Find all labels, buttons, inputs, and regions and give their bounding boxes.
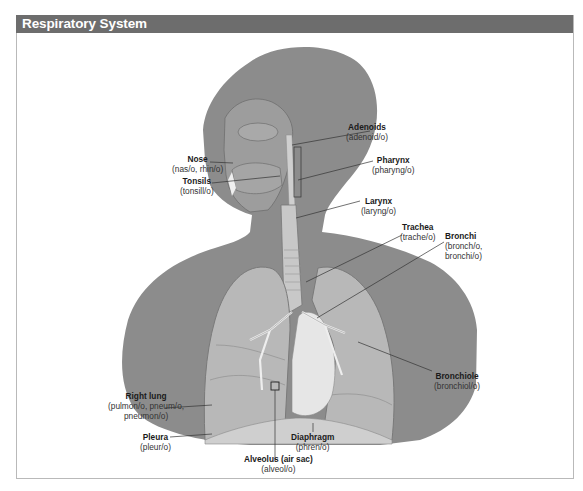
respiratory-illustration — [0, 0, 583, 491]
label-bronchiole: Bronchiole (bronchiol/o) — [434, 371, 480, 391]
label-right-lung: Right lung (pulmon/o, pneum/o, pneumon/o… — [108, 391, 184, 421]
label-bronchi: Bronchi (bronch/o, bronchi/o) — [445, 231, 482, 261]
label-pleura: Pleura (pleur/o) — [140, 432, 171, 452]
label-trachea: Trachea (trache/o) — [400, 222, 436, 242]
label-nose: Nose (nas/o, rhin/o) — [172, 154, 223, 174]
label-alveolus: Alveolus (air sac) (alveol/o) — [244, 454, 313, 474]
label-tonsils: Tonsils (tonsill/o) — [180, 176, 214, 196]
label-adenoids: Adenoids (adenoid/o) — [346, 122, 388, 142]
label-diaphragm: Diaphragm (phren/o) — [291, 432, 334, 452]
label-pharynx: Pharynx (pharyng/o) — [372, 155, 414, 175]
label-larynx: Larynx (laryng/o) — [361, 196, 396, 216]
